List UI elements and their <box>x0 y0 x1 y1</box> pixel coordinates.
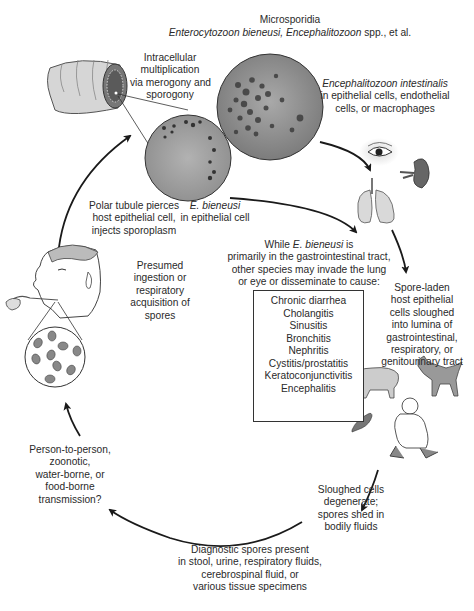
label-line: host epithelial cell, <box>84 212 184 224</box>
label-presumed-ingestion: Presumed ingestion or respiratory acquis… <box>124 260 196 322</box>
label-line: food-borne <box>20 481 120 493</box>
disease-item: Encephalitis <box>254 383 363 396</box>
label-line: spores shed in <box>306 509 396 521</box>
label-line: sporogony <box>130 89 210 101</box>
label-spore-laden: Spore-laden host epithelial cells slough… <box>372 282 472 369</box>
disease-item: Keratoconjunctivitis <box>254 370 363 383</box>
label-line: Presumed <box>124 260 196 272</box>
label-line: multiplication <box>130 64 210 76</box>
label-line: acquisition of <box>124 297 196 309</box>
label-line: Person-to-person, <box>20 444 120 456</box>
title-species-line: Enterocytozoon bieneusi, Encephalitozoon… <box>140 27 440 39</box>
disease-item: Nephritis <box>254 345 363 358</box>
label-line: While E. bieneusi is <box>214 239 404 251</box>
label-line: in stool, urine, respiratory fluids, <box>150 556 350 568</box>
disease-item: Bronchitis <box>254 333 363 346</box>
label-line: into lumina of <box>372 319 472 331</box>
label-person-to-person: Person-to-person, zoonotic, water-borne,… <box>20 444 120 506</box>
label-line: Polar tubule pierces <box>84 200 184 212</box>
label-diagnostic-spores: Diagnostic spores present in stool, urin… <box>150 544 350 594</box>
crouching-man-illustration <box>390 398 438 458</box>
label-line: cells sloughed <box>372 307 472 319</box>
disease-item: Cholangitis <box>254 308 363 321</box>
arrow-diagnostic-to-transmission <box>110 510 302 546</box>
disease-item: Sinusitis <box>254 320 363 333</box>
title-species-rest: spp., et al. <box>361 27 411 38</box>
label-line: cells, or macrophages <box>310 103 460 115</box>
label-e-intestinalis: Encephalitozoon intestinalis in epitheli… <box>310 78 460 115</box>
label-line: Intracellular <box>130 52 210 64</box>
label-line: host epithelial <box>372 294 472 306</box>
label-line: cerebrospinal fluid, or <box>150 569 350 581</box>
label-line: transmission? <box>20 494 120 506</box>
arrow-transmission-to-ingestion <box>66 404 80 436</box>
label-line: Spore-laden <box>372 282 472 294</box>
label-line: Diagnostic spores present <box>150 544 350 556</box>
label-line: respiratory, or <box>372 344 472 356</box>
species-name: E. bieneusi <box>293 239 343 250</box>
text-prefix: While <box>265 239 293 250</box>
label-sloughed-cells: Sloughed cells degenerate; spores shed i… <box>306 484 396 534</box>
label-line: degenerate; <box>306 496 396 508</box>
label-line: water-borne, or <box>20 469 120 481</box>
label-intracellular-multiplication: Intracellular multiplication via merogon… <box>130 52 210 102</box>
human-head-illustration <box>6 245 101 340</box>
spores-magnified-illustration <box>25 327 85 387</box>
label-line: genitourinary tract <box>372 356 472 368</box>
label-line: other species may invade the lung <box>214 264 404 276</box>
title-species-italic: Enterocytozoon bieneusi, Encephalitozoon <box>169 27 362 38</box>
title-microsporidia: Microsporidia <box>220 14 360 26</box>
label-line: injects sporoplasm <box>84 225 184 237</box>
kidney-illustration <box>400 159 429 188</box>
label-line: via merogony and <box>130 77 210 89</box>
label-line: ingestion or <box>124 272 196 284</box>
disease-item: Cystitis/prostatitis <box>254 358 363 371</box>
label-line: Sloughed cells <box>306 484 396 496</box>
label-line: zoonotic, <box>20 456 120 468</box>
text-suffix: is <box>343 239 353 250</box>
species-name: Encephalitozoon intestinalis <box>310 78 460 90</box>
label-line: spores <box>124 310 196 322</box>
label-line: in epithelial cells, endothelial <box>310 90 460 102</box>
label-line: primarily in the gastrointestinal tract, <box>214 251 404 263</box>
micrograph-e-intestinalis <box>217 54 323 160</box>
label-polar-tubule: Polar tubule pierces host epithelial cel… <box>84 200 184 237</box>
label-line: various tissue specimens <box>150 581 350 593</box>
label-line: respiratory <box>124 285 196 297</box>
disease-item: Chronic diarrhea <box>254 295 363 308</box>
label-line: gastrointestinal, <box>372 332 472 344</box>
lungs-illustration <box>358 178 394 223</box>
disease-list-box: Chronic diarrhea Cholangitis Sinusitis B… <box>253 290 364 422</box>
label-line: bodily fluids <box>306 521 396 533</box>
micrograph-e-bieneusi <box>145 115 231 201</box>
